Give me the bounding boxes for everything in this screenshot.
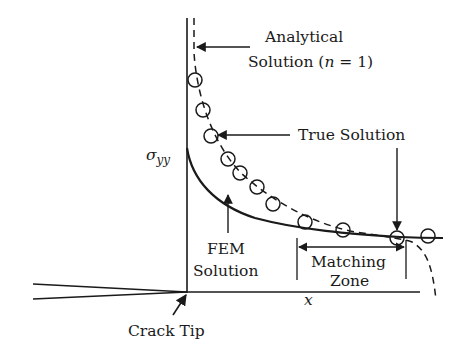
analytical-label-line2: Solution (n = 1) xyxy=(248,53,373,71)
sigma-yy-label: σyy xyxy=(146,146,170,167)
crack-face-lower xyxy=(33,292,187,299)
x-axis-label: x xyxy=(304,291,313,309)
crack-tip-stress-diagram: Analytical Solution (n = 1) True Solutio… xyxy=(0,0,468,355)
crack-tip-label: Crack Tip xyxy=(128,322,205,340)
matching-zone-label-line2: Zone xyxy=(330,272,369,290)
crack-face-upper xyxy=(33,284,187,292)
fem-label-line1: FEM xyxy=(207,240,245,258)
analytical-label-line1: Analytical xyxy=(264,28,343,46)
fem-solution-curve xyxy=(187,148,443,238)
true-solution-points xyxy=(188,73,435,245)
true-solution-label: True Solution xyxy=(298,126,405,144)
matching-zone-label-line1: Matching xyxy=(311,253,386,271)
crack-tip-arrow xyxy=(173,295,186,315)
fem-label-line2: Solution xyxy=(193,262,258,280)
